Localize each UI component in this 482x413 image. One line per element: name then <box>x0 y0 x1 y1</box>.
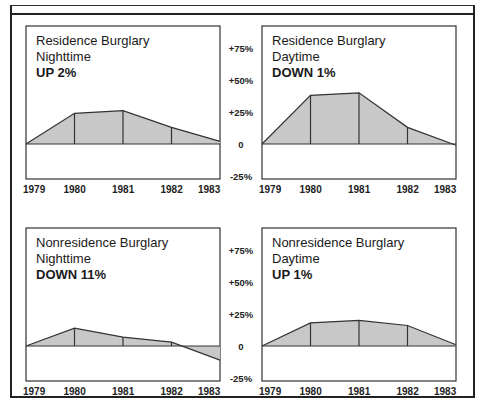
panel-subtitle: Nighttime <box>36 49 91 64</box>
panel-title: Residence Burglary <box>272 33 386 48</box>
x-tick-label: 1980 <box>300 386 323 397</box>
x-tick-label: 1981 <box>112 184 135 195</box>
x-tick-label: 1979 <box>259 386 282 397</box>
panel-title: Nonresidence Burglary <box>272 235 405 250</box>
x-tick-label: 1983 <box>198 386 221 397</box>
x-tick-label: 1982 <box>397 386 420 397</box>
x-tick-label: 1981 <box>348 184 371 195</box>
y-tick-label: +50% <box>229 277 254 288</box>
panel-status: DOWN 1% <box>272 65 336 80</box>
panel-title: Residence Burglary <box>36 33 150 48</box>
panel-subtitle: Daytime <box>272 49 320 64</box>
panel-subtitle: Daytime <box>272 251 320 266</box>
x-tick-label: 1983 <box>434 184 457 195</box>
chart-panel: Nonresidence BurglaryDaytimeUP 1%1979198… <box>259 228 457 397</box>
y-tick-label: +75% <box>229 245 254 256</box>
y-tick-label: -25% <box>230 373 253 384</box>
panel-status: UP 1% <box>272 267 313 282</box>
y-tick-label: +75% <box>229 43 254 54</box>
x-tick-label: 1979 <box>259 184 282 195</box>
y-tick-label: 0 <box>238 341 243 352</box>
panel-title: Nonresidence Burglary <box>36 235 169 250</box>
y-tick-label: +25% <box>229 309 254 320</box>
x-tick-label: 1982 <box>397 184 420 195</box>
chart-panel: Nonresidence BurglaryNighttimeDOWN 11%19… <box>23 228 221 397</box>
x-tick-label: 1981 <box>348 386 371 397</box>
y-tick-label: -25% <box>230 171 253 182</box>
x-tick-label: 1983 <box>434 386 457 397</box>
x-tick-label: 1980 <box>64 386 87 397</box>
x-tick-label: 1983 <box>198 184 221 195</box>
x-tick-label: 1979 <box>23 184 46 195</box>
panel-status: DOWN 11% <box>36 267 107 282</box>
y-axis-labels-bottom: +75%+50%+25%0-25% <box>229 245 254 384</box>
x-tick-label: 1981 <box>112 386 135 397</box>
x-tick-label: 1980 <box>64 184 87 195</box>
chart-panel: Residence BurglaryNighttimeUP 2%19791980… <box>23 26 221 195</box>
y-tick-label: 0 <box>238 139 243 150</box>
y-tick-label: +25% <box>229 107 254 118</box>
y-tick-label: +50% <box>229 75 254 86</box>
y-axis-labels-top: +75%+50%+25%0-25% <box>229 43 254 182</box>
burglary-trend-charts: Residence BurglaryNighttimeUP 2%19791980… <box>0 0 482 413</box>
x-tick-label: 1982 <box>161 386 184 397</box>
panel-subtitle: Nighttime <box>36 251 91 266</box>
x-tick-label: 1979 <box>23 386 46 397</box>
chart-panel: Residence BurglaryDaytimeDOWN 1%19791980… <box>259 26 457 195</box>
x-tick-label: 1982 <box>161 184 184 195</box>
x-tick-label: 1980 <box>300 184 323 195</box>
panel-status: UP 2% <box>36 65 77 80</box>
